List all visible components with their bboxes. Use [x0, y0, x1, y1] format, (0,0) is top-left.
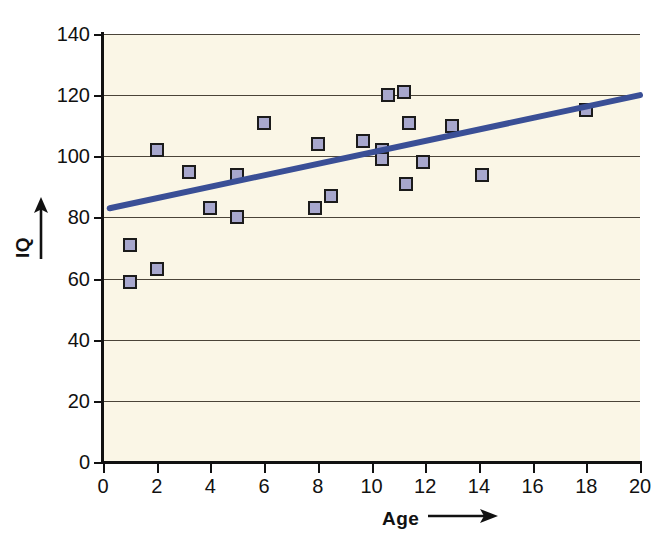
data-point — [308, 201, 322, 215]
x-tick-label: 18 — [561, 476, 611, 496]
x-axis-line — [101, 461, 642, 464]
gridline — [103, 279, 640, 280]
y-tick-label: 40 — [50, 330, 90, 350]
data-point — [416, 155, 430, 169]
data-point — [123, 238, 137, 252]
data-point — [203, 201, 217, 215]
x-tick-mark — [586, 464, 588, 473]
x-tick-label: 8 — [293, 476, 343, 496]
gridline — [103, 34, 640, 35]
x-tick-mark — [372, 464, 374, 473]
y-tick-label: 20 — [50, 391, 90, 411]
x-tick-mark — [318, 464, 320, 473]
data-point — [182, 165, 196, 179]
gridline — [103, 217, 640, 218]
x-tick-label: 2 — [132, 476, 182, 496]
x-tick-label: 4 — [185, 476, 235, 496]
x-tick-mark — [264, 464, 266, 473]
y-tick-label: 80 — [50, 207, 90, 227]
data-point — [402, 116, 416, 130]
x-axis-title: Age — [382, 508, 419, 530]
x-tick-mark — [479, 464, 481, 473]
gridline — [103, 401, 640, 402]
x-tick-label: 20 — [615, 476, 664, 496]
x-tick-mark — [157, 464, 159, 473]
chart-figure: 020406080100120140 02468101214161820 IQ … — [0, 0, 664, 545]
data-point — [257, 116, 271, 130]
data-point — [356, 134, 370, 148]
y-tick-label: 60 — [50, 269, 90, 289]
up-arrow-icon — [31, 197, 51, 259]
right-arrow-icon — [428, 505, 498, 527]
x-tick-mark — [425, 464, 427, 473]
data-point — [375, 152, 389, 166]
data-point — [150, 262, 164, 276]
data-point — [445, 119, 459, 133]
data-point — [324, 189, 338, 203]
x-tick-label: 0 — [78, 476, 128, 496]
x-tick-mark — [640, 464, 642, 473]
x-tick-label: 10 — [347, 476, 397, 496]
x-tick-mark — [210, 464, 212, 473]
data-point — [397, 85, 411, 99]
data-point — [475, 168, 489, 182]
data-point — [123, 275, 137, 289]
data-point — [230, 210, 244, 224]
data-point — [230, 168, 244, 182]
y-axis-line — [101, 32, 104, 464]
x-tick-label: 6 — [239, 476, 289, 496]
data-point — [381, 88, 395, 102]
data-point — [399, 177, 413, 191]
x-tick-label: 16 — [508, 476, 558, 496]
y-tick-label: 0 — [50, 452, 90, 472]
gridline — [103, 340, 640, 341]
y-tick-label: 120 — [50, 85, 90, 105]
plot-area — [103, 34, 640, 462]
data-point — [311, 137, 325, 151]
x-tick-mark — [533, 464, 535, 473]
x-tick-mark — [103, 464, 105, 473]
gridline — [103, 95, 640, 96]
gridline — [103, 156, 640, 157]
data-point — [150, 143, 164, 157]
x-tick-label: 14 — [454, 476, 504, 496]
x-tick-label: 12 — [400, 476, 450, 496]
y-tick-label: 100 — [50, 146, 90, 166]
y-tick-label: 140 — [50, 24, 90, 44]
data-point — [579, 103, 593, 117]
